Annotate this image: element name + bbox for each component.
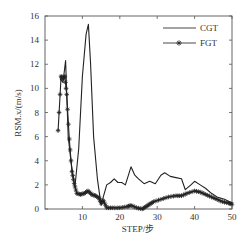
x-tick-label: 40 bbox=[190, 212, 200, 222]
x-tick-label: 30 bbox=[153, 212, 163, 222]
y-tick-label: 8 bbox=[35, 108, 40, 118]
series-fgt bbox=[56, 74, 235, 211]
series-layer bbox=[56, 24, 235, 211]
y-tick-label: 12 bbox=[30, 59, 39, 69]
x-axis-label: STEP/步 bbox=[122, 224, 155, 234]
x-tick-label: 50 bbox=[228, 212, 238, 222]
legend-label-fgt: FGT bbox=[200, 38, 218, 48]
series-cgt bbox=[60, 24, 232, 205]
x-tick-label: 20 bbox=[115, 212, 125, 222]
line-chart: 1020304050 0246810121416 STEP/步 RSM.x/(m… bbox=[0, 0, 244, 246]
y-tick-label: 2 bbox=[35, 180, 40, 190]
x-tick-label: 10 bbox=[78, 212, 88, 222]
y-tick-label: 4 bbox=[35, 156, 40, 166]
legend-label-cgt: CGT bbox=[200, 23, 219, 33]
y-tick-label: 14 bbox=[30, 35, 40, 45]
y-tick-label: 16 bbox=[30, 11, 40, 21]
y-axis-label: RSM.x/(m/s) bbox=[13, 89, 23, 136]
y-tick-label: 6 bbox=[35, 132, 40, 142]
y-tick-label: 10 bbox=[30, 83, 40, 93]
star-marker-icon bbox=[176, 40, 182, 46]
y-tick-label: 0 bbox=[35, 204, 40, 214]
legend: CGT FGT bbox=[163, 23, 219, 48]
